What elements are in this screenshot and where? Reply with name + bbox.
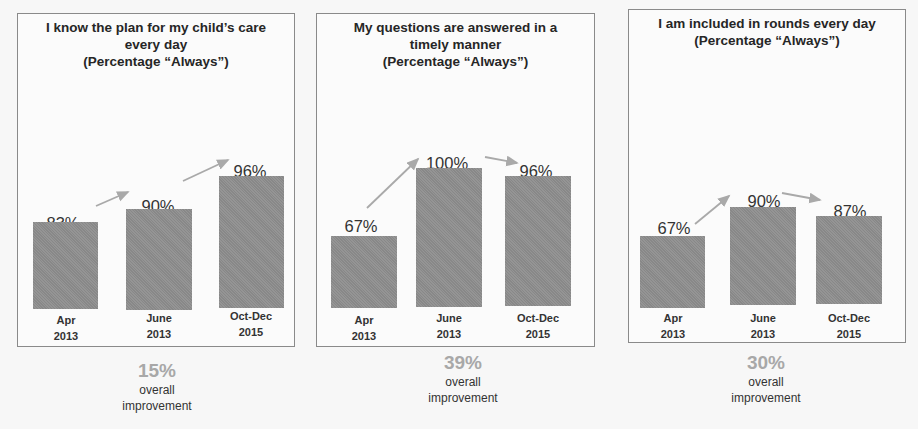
bar-oct-dec-2015 (816, 216, 882, 304)
bar-category-label: June 2013 (124, 310, 194, 342)
overall-improvement-label: overall improvement (97, 382, 217, 414)
chart-panel-questions-answered: My questions are answered in a timely ma… (316, 13, 595, 347)
bar-oct-dec-2015 (219, 176, 284, 308)
bar-category-label: Oct-Dec 2015 (503, 310, 573, 342)
bar-oct-dec-2015 (505, 176, 571, 306)
bar-category-label: Apr 2013 (31, 312, 101, 344)
overall-improvement-percent: 15% (97, 360, 217, 382)
bar-category-label: June 2013 (728, 310, 798, 342)
bar-category-label: Apr 2013 (329, 312, 399, 344)
bar-category-label: Apr 2013 (638, 310, 708, 342)
bar-value-label: 67% (639, 219, 709, 237)
bar-apr-2013 (331, 236, 397, 308)
bar-value-label: 67% (326, 217, 396, 235)
bar-june-2013 (126, 209, 192, 310)
chart-title: My questions are answered in a timely ma… (317, 19, 594, 70)
chart-title: I am included in rounds every day (Perce… (629, 15, 905, 49)
bar-june-2013 (730, 207, 796, 305)
chart-panel-included-in-rounds: I am included in rounds every day (Perce… (628, 9, 906, 343)
bar-june-2013 (416, 168, 482, 307)
bar-apr-2013 (33, 222, 98, 309)
bar-category-label: Oct-Dec 2015 (814, 310, 884, 342)
bar-category-label: June 2013 (414, 310, 484, 342)
overall-improvement-percent: 39% (403, 352, 523, 374)
bar-category-label: Oct-Dec 2015 (216, 308, 286, 340)
chart-panel-plan-of-care: I know the plan for my child’s care ever… (17, 13, 295, 347)
overall-improvement-percent: 30% (706, 352, 826, 374)
overall-improvement-label: overall improvement (706, 374, 826, 406)
overall-improvement-label: overall improvement (403, 374, 523, 406)
chart-title: I know the plan for my child’s care ever… (18, 19, 294, 70)
bar-apr-2013 (640, 236, 705, 308)
